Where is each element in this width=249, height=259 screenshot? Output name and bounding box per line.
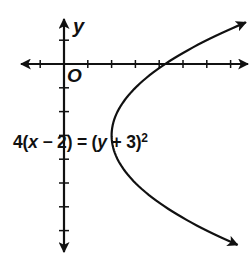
equation-equals: ) = ( — [67, 132, 98, 152]
equation-h: 2 — [57, 132, 67, 152]
y-axis-label: y — [73, 16, 84, 36]
equation-coefficient: 4 — [13, 132, 23, 152]
equation-plus: + — [107, 132, 126, 152]
equation-y-variable: y — [97, 132, 107, 152]
equation-k: 3 — [126, 132, 136, 152]
equation-exponent: 2 — [141, 131, 147, 145]
origin-label: O — [67, 66, 82, 85]
equation-label: 4(x − 2) = (y + 3)2 — [13, 134, 148, 152]
equation-x-variable: x — [28, 132, 38, 152]
coordinate-graph — [0, 0, 249, 259]
equation-minus: − — [38, 132, 57, 152]
